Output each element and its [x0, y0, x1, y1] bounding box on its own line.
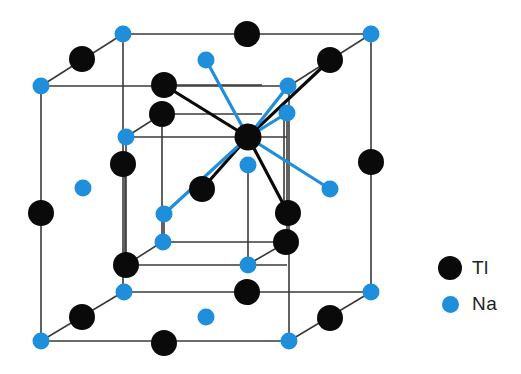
na-atom — [198, 309, 215, 326]
tl-atom — [113, 252, 139, 278]
legend-label-tl: Tl — [472, 257, 489, 279]
tl-atom — [69, 304, 95, 330]
na-atom — [118, 129, 135, 146]
tl-atom — [273, 229, 299, 255]
tl-atom — [28, 200, 54, 226]
legend-item-na: Na — [438, 286, 497, 322]
na-atom — [322, 181, 339, 198]
tl-atom — [189, 176, 215, 202]
na-atom — [115, 26, 132, 43]
na-atom — [116, 284, 133, 301]
tl-swatch-icon — [438, 256, 462, 280]
na-atom — [279, 105, 296, 122]
tl-atom — [151, 330, 177, 356]
legend-item-tl: Tl — [438, 250, 497, 286]
na-atom — [33, 78, 50, 95]
na-atom — [156, 206, 173, 223]
tl-atom — [69, 46, 95, 72]
tl-atom — [234, 279, 260, 305]
legend-label-na: Na — [472, 293, 497, 315]
na-atom — [363, 284, 380, 301]
legend: Tl Na — [438, 250, 497, 322]
tl-atom — [151, 72, 177, 98]
na-atom — [75, 180, 92, 197]
na-atom — [33, 333, 50, 350]
tl-atom — [317, 305, 343, 331]
tl-atom — [358, 149, 384, 175]
tl-atom — [110, 151, 136, 177]
tl-atom — [275, 200, 301, 226]
na-swatch-icon — [442, 296, 459, 313]
tl-atom — [149, 101, 175, 127]
na-atom — [281, 333, 298, 350]
tl-atom-center — [235, 124, 262, 151]
na-atom — [240, 257, 257, 274]
na-atom — [198, 52, 215, 69]
na-atom — [155, 234, 172, 251]
na-atom — [280, 78, 297, 95]
na-atom — [240, 157, 257, 174]
tl-atom — [317, 47, 343, 73]
na-atom — [363, 26, 380, 43]
tl-atom — [234, 21, 260, 47]
